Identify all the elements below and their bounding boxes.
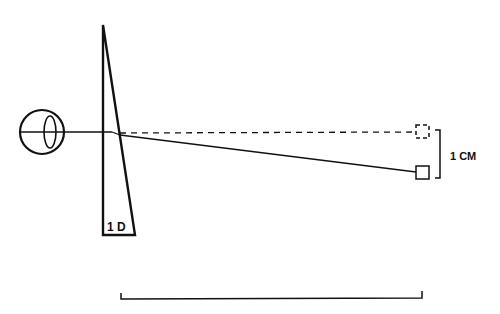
displacement-bracket bbox=[435, 130, 440, 178]
actual-target bbox=[416, 166, 429, 179]
apparent-target bbox=[416, 125, 429, 138]
prism bbox=[103, 25, 135, 235]
prism-diopter-diagram: 1 CM 1 D bbox=[0, 0, 500, 314]
deviated-ray bbox=[120, 135, 416, 172]
apparent-ray-dashed bbox=[120, 132, 415, 133]
displacement-label: 1 CM bbox=[450, 150, 476, 162]
prism-label: 1 D bbox=[107, 220, 126, 234]
distance-bracket bbox=[121, 291, 422, 299]
